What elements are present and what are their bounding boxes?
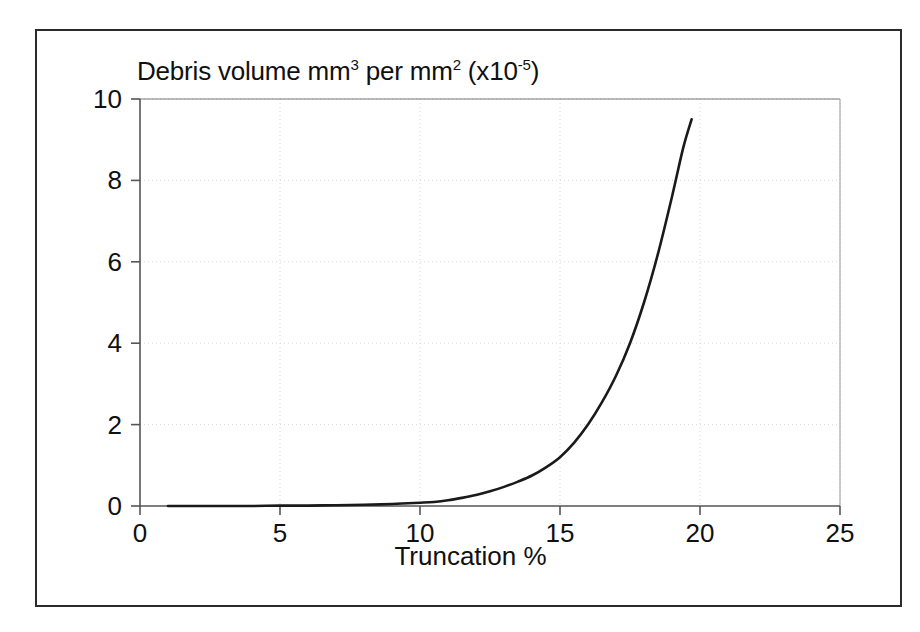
y-tick-label: 2 <box>72 409 122 440</box>
data-curve-line <box>168 119 692 506</box>
y-tick-label: 8 <box>72 165 122 196</box>
y-tick-label: 10 <box>72 84 122 115</box>
figure-frame: Debris volume mm3 per mm2 (x10-5) 024681… <box>35 29 902 607</box>
gridlines-horizontal <box>140 99 840 425</box>
data-curve-group <box>168 119 692 506</box>
tick-marks <box>131 99 840 515</box>
y-tick-label: 6 <box>72 246 122 277</box>
y-tick-label: 0 <box>72 491 122 522</box>
gridlines-vertical <box>280 99 840 506</box>
x-axis-title: Truncation % <box>37 541 904 572</box>
chart-area: Debris volume mm3 per mm2 (x10-5) 024681… <box>37 31 904 609</box>
y-tick-label: 4 <box>72 328 122 359</box>
axis-lines <box>140 99 840 506</box>
